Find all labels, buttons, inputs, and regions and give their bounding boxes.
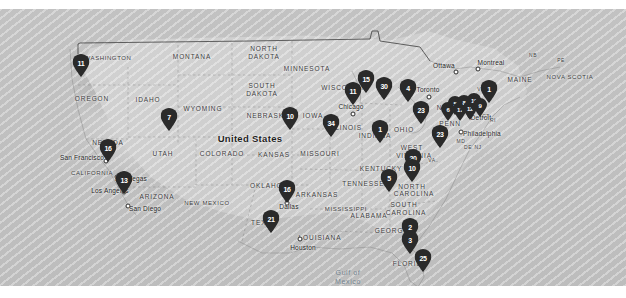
map-pin-icon [404, 159, 421, 182]
map-pin-icon [323, 114, 340, 137]
map-pin-icon [282, 107, 299, 130]
map-pin-icon [481, 80, 498, 103]
city-dot [126, 204, 131, 209]
map-pin-icon [381, 169, 398, 192]
map-pin-icon [400, 79, 417, 102]
map-marker-pin[interactable]: 1 [481, 80, 498, 103]
map-marker-pin[interactable]: 16 [100, 139, 117, 162]
map-pin-icon [116, 171, 133, 194]
map-pin-icon [376, 77, 393, 100]
map-pin-icon [432, 125, 449, 148]
map-viewport[interactable]: WASHINGTONOREGONIDAHOMONTANAWYOMINGNEVAD… [0, 0, 626, 298]
map-marker-pin[interactable]: 7 [161, 108, 178, 131]
city-dot [476, 67, 481, 72]
map-marker-pin[interactable]: 25 [415, 249, 432, 272]
map-pin-icon [413, 101, 430, 124]
map-marker-pin[interactable]: 13 [116, 171, 133, 194]
map-marker-pin[interactable]: 23 [413, 101, 430, 124]
map-marker-pin[interactable]: 30 [376, 77, 393, 100]
map-marker-pin[interactable]: 10 [404, 159, 421, 182]
map-pin-icon [345, 82, 362, 105]
city-dot [427, 95, 432, 100]
map-pin-icon [73, 54, 90, 77]
city-dot [454, 70, 459, 75]
map-marker-pin[interactable]: 34 [323, 114, 340, 137]
map-marker-pin[interactable]: 11 [345, 82, 362, 105]
map-canvas[interactable]: WASHINGTONOREGONIDAHOMONTANAWYOMINGNEVAD… [0, 9, 626, 286]
map-marker-pin[interactable]: 11 [73, 54, 90, 77]
map-pin-icon [279, 180, 296, 203]
map-marker-pin[interactable]: 16 [279, 180, 296, 203]
map-marker-pin[interactable]: 1 [372, 120, 389, 143]
map-pin-icon [263, 210, 280, 233]
map-marker-pin[interactable]: 10 [282, 107, 299, 130]
map-pin-icon [100, 139, 117, 162]
map-marker-pin[interactable]: 4 [400, 79, 417, 102]
map-marker-pin[interactable]: 5 [381, 169, 398, 192]
map-pin-icon [372, 120, 389, 143]
map-marker-pin[interactable]: 21 [263, 210, 280, 233]
map-pin-icon [161, 108, 178, 131]
map-pin-icon [415, 249, 432, 272]
city-dot [298, 237, 303, 242]
city-dot [459, 130, 464, 135]
city-dot [351, 112, 356, 117]
map-marker-pin[interactable]: 23 [432, 125, 449, 148]
